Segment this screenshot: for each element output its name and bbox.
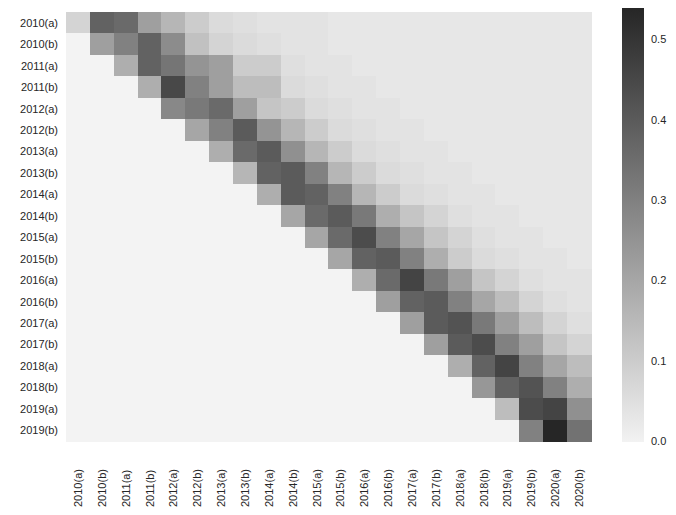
heatmap-cell [424,398,449,420]
heatmap-cell [376,227,401,249]
heatmap-cell [281,398,306,420]
heatmap-cell [352,119,377,141]
heatmap-cell [400,269,425,291]
heatmap-cell [543,227,568,249]
heatmap-cell [495,377,520,399]
y-tick-label: 2016(a) [0,274,58,286]
heatmap-cell [328,377,353,399]
y-tick-label: 2014(b) [0,210,58,222]
heatmap-cell [161,162,186,184]
heatmap-cell [519,312,544,334]
heatmap-cell [233,420,258,442]
heatmap-cell [257,248,282,270]
heatmap-cell [90,184,115,206]
x-tick-label: 2018(b) [478,447,490,507]
heatmap-cell [66,398,91,420]
heatmap-cell [376,269,401,291]
heatmap-cell [472,398,497,420]
heatmap-cell [114,98,139,120]
heatmap-cell [448,291,473,313]
heatmap-cell [161,227,186,249]
heatmap-cell [66,98,91,120]
heatmap-cell [114,205,139,227]
heatmap-cell [185,141,210,163]
heatmap-cell [233,205,258,227]
heatmap-cell [328,312,353,334]
heatmap-cell [328,227,353,249]
heatmap-cell [472,312,497,334]
heatmap-cell [472,12,497,34]
heatmap-cell [305,119,330,141]
heatmap-cell [114,398,139,420]
heatmap-cell [424,141,449,163]
heatmap-cell [185,55,210,77]
heatmap-cell [114,227,139,249]
heatmap-cell [185,98,210,120]
heatmap-cell [328,184,353,206]
heatmap-cell [567,312,592,334]
heatmap-cell [90,355,115,377]
heatmap-cell [161,248,186,270]
heatmap-cell [567,420,592,442]
heatmap-cell [305,227,330,249]
heatmap-cell [328,12,353,34]
heatmap-cell [305,162,330,184]
heatmap-cell [281,205,306,227]
heatmap-cell [519,33,544,55]
heatmap-cell [543,355,568,377]
heatmap-cell [567,334,592,356]
heatmap-cell [66,205,91,227]
heatmap-cell [352,184,377,206]
heatmap-cell [424,205,449,227]
heatmap-cell [185,119,210,141]
heatmap-cell [352,334,377,356]
heatmap-cell [495,141,520,163]
heatmap-cell [185,12,210,34]
heatmap-cell [424,377,449,399]
heatmap-cell [257,12,282,34]
heatmap-cell [400,248,425,270]
heatmap-cell [281,76,306,98]
heatmap-cell [543,162,568,184]
heatmap-cell [519,141,544,163]
heatmap-cell [90,55,115,77]
heatmap-cell [495,98,520,120]
heatmap-cell [66,420,91,442]
heatmap-cell [233,227,258,249]
heatmap-cell [519,334,544,356]
heatmap-cell [448,119,473,141]
heatmap-cell [328,162,353,184]
y-tick-label: 2012(b) [0,124,58,136]
heatmap-cell [233,398,258,420]
heatmap-cell [233,162,258,184]
heatmap-cell [66,227,91,249]
x-tick-label: 2013(b) [239,447,251,507]
heatmap-cell [138,141,163,163]
heatmap-cell [138,269,163,291]
heatmap-cell [352,312,377,334]
heatmap-cell [519,398,544,420]
x-tick-label: 2020(b) [573,447,585,507]
heatmap-cell [376,162,401,184]
heatmap-cell [567,355,592,377]
heatmap-cell [400,162,425,184]
heatmap-cell [161,377,186,399]
x-tick-label: 2014(b) [287,447,299,507]
heatmap-cell [233,98,258,120]
heatmap-cell [257,76,282,98]
heatmap-cell [376,248,401,270]
x-tick-label: 2017(b) [430,447,442,507]
heatmap-cell [305,12,330,34]
x-tick-label: 2010(b) [96,447,108,507]
heatmap-cell [567,398,592,420]
heatmap-cell [281,33,306,55]
heatmap-cell [233,334,258,356]
colorbar [622,8,644,442]
heatmap-cell [543,76,568,98]
heatmap-cell [352,205,377,227]
heatmap-cell [328,55,353,77]
heatmap-cell [209,269,234,291]
heatmap-cell [257,334,282,356]
heatmap-cell [90,248,115,270]
heatmap-cell [472,377,497,399]
